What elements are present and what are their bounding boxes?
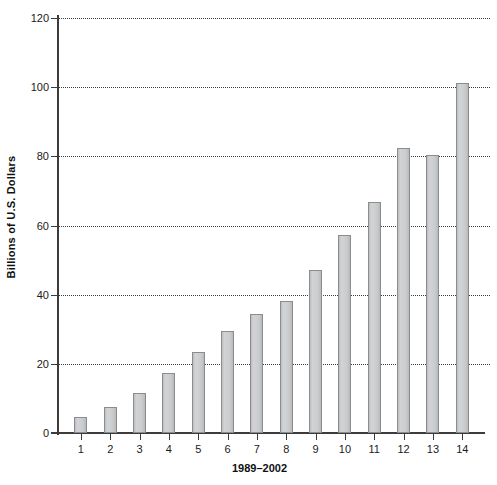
gridline	[58, 18, 490, 19]
x-tick-label: 4	[166, 443, 172, 455]
y-tick-label: 0	[43, 427, 49, 439]
x-tick-label: 7	[254, 443, 260, 455]
x-tick-label: 6	[225, 443, 231, 455]
bar	[133, 393, 146, 433]
bar	[192, 352, 205, 433]
y-tick-mark	[51, 87, 58, 88]
y-tick-mark	[51, 226, 58, 227]
x-tick-mark	[286, 433, 287, 440]
bar	[221, 331, 234, 433]
bar	[338, 235, 351, 433]
gridline	[58, 295, 490, 296]
gridline	[58, 226, 490, 227]
x-tick-label: 9	[313, 443, 319, 455]
x-tick-mark	[198, 433, 199, 440]
x-tick-mark	[110, 433, 111, 440]
x-tick-label: 11	[369, 443, 380, 455]
x-tick-label: 12	[397, 443, 409, 455]
bar	[280, 301, 293, 433]
y-tick-mark	[51, 18, 58, 19]
bar	[426, 155, 439, 433]
x-tick-mark	[257, 433, 258, 440]
x-tick-label: 13	[427, 443, 439, 455]
x-tick-mark	[140, 433, 141, 440]
bar	[309, 270, 322, 433]
y-axis-title: Billions of U.S. Dollars	[0, 0, 22, 433]
bar-chart: Billions of U.S. Dollars 020406080100120…	[0, 0, 497, 485]
x-tick-mark	[404, 433, 405, 440]
x-tick-label: 3	[136, 443, 142, 455]
x-tick-mark	[81, 433, 82, 440]
bar	[250, 314, 263, 433]
x-tick-mark	[228, 433, 229, 440]
bar	[162, 373, 175, 433]
y-tick-label: 60	[37, 220, 49, 232]
x-tick-mark	[462, 433, 463, 440]
bar	[368, 202, 381, 433]
x-tick-mark	[374, 433, 375, 440]
y-tick-label: 120	[31, 12, 49, 24]
x-tick-label: 8	[283, 443, 289, 455]
y-tick-mark	[51, 433, 58, 434]
y-tick-label: 40	[37, 289, 49, 301]
plot-area: 020406080100120	[58, 18, 484, 433]
x-tick-label: 2	[107, 443, 113, 455]
x-tick-mark	[345, 433, 346, 440]
x-tick-label: 5	[195, 443, 201, 455]
x-axis-title: 1989–2002	[0, 462, 497, 474]
x-tick-mark	[169, 433, 170, 440]
gridline	[58, 87, 490, 88]
gridline	[58, 156, 490, 157]
x-tick-label: 1	[78, 443, 84, 455]
y-tick-label: 100	[31, 81, 49, 93]
bar	[74, 417, 87, 433]
x-tick-mark	[433, 433, 434, 440]
x-axis-title-text: 1989–2002	[232, 462, 287, 474]
x-tick-label: 14	[456, 443, 468, 455]
y-axis-title-text: Billions of U.S. Dollars	[5, 155, 17, 278]
y-tick-mark	[51, 364, 58, 365]
x-tick-mark	[316, 433, 317, 440]
y-tick-label: 20	[37, 358, 49, 370]
gridline	[58, 364, 490, 365]
x-tick-label: 10	[339, 443, 351, 455]
y-tick-mark	[51, 295, 58, 296]
y-tick-mark	[51, 156, 58, 157]
bar	[397, 148, 410, 433]
bar	[104, 407, 117, 433]
bar	[456, 83, 469, 433]
y-tick-label: 80	[37, 150, 49, 162]
